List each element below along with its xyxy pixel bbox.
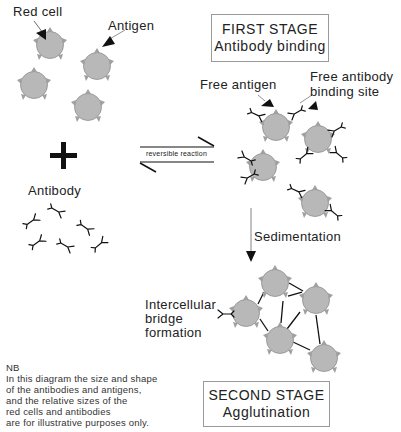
antibody-icon (28, 235, 46, 251)
antibody-icon (287, 184, 305, 198)
agglutination-cluster (218, 265, 341, 373)
red-cell-icon (263, 322, 297, 355)
red-cell-icon (298, 185, 332, 218)
antibody-icon (22, 214, 40, 230)
antigen-label: Antigen (108, 18, 154, 33)
antibody-group (22, 203, 108, 253)
note-line: are for illustrative purposes only. (6, 417, 158, 428)
red-cell-icon (246, 149, 280, 182)
note-line: and the relative sizes of the (6, 395, 158, 406)
note-line: red cells and antibodies (6, 406, 158, 417)
arrowhead-icon (261, 99, 274, 107)
arrowhead-icon (308, 101, 318, 110)
red-cell-icon (71, 89, 105, 122)
red-cell-icon (307, 340, 341, 373)
red-cell-icon (301, 121, 335, 154)
free-antigen-label: Free antigen (200, 77, 277, 92)
red-cell-icon (258, 265, 292, 298)
antibody-icon (91, 236, 108, 252)
antibody-icon (247, 108, 265, 122)
red-cell-icon (80, 48, 114, 81)
red-cell-icon (33, 27, 67, 60)
bound-cell-group (238, 105, 348, 221)
arrow-down-icon (246, 251, 256, 262)
bridge-label-line2: bridge (145, 311, 183, 326)
arrowhead-icon (102, 36, 115, 47)
note-heading: NB (6, 362, 158, 373)
antibody-icon (288, 105, 306, 120)
antibody-icon (76, 220, 94, 236)
antibody-icon (56, 238, 74, 253)
red-cell-group (17, 27, 114, 122)
bridge-label-line3: formation (145, 325, 202, 340)
antibody-icon (218, 310, 234, 318)
reversible-reaction-label: reversible reaction (146, 150, 207, 158)
plus-icon (50, 142, 77, 169)
free-antibody-label-line2: binding site (310, 84, 379, 99)
first-stage-subtitle: Antibody binding (212, 38, 328, 55)
red-cell-icon (299, 282, 333, 315)
red-cell-label: Red cell (13, 4, 62, 19)
red-cell-icon (17, 67, 51, 100)
free-antibody-label-line1: Free antibody (310, 69, 393, 84)
first-stage-box: FIRST STAGE Antibody binding (211, 14, 329, 62)
note-block: NB In this diagram the size and shape of… (6, 362, 158, 428)
first-stage-title: FIRST STAGE (212, 21, 328, 38)
second-stage-box: SECOND STAGE Agglutination (203, 381, 330, 427)
sedimentation-label: Sedimentation (254, 229, 341, 244)
note-line: In this diagram the size and shape (6, 373, 158, 384)
second-stage-title: SECOND STAGE (204, 387, 329, 404)
second-stage-subtitle: Agglutination (204, 404, 329, 421)
antibody-label: Antibody (28, 183, 81, 198)
antibody-icon (330, 146, 347, 162)
antibody-icon (47, 203, 65, 218)
note-line: of the antibodies and antigens, (6, 384, 158, 395)
bridge-label-line1: Intercellular (145, 297, 216, 312)
